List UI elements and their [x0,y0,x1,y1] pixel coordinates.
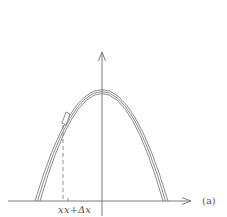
curve-element [62,112,70,125]
outer-parabola [35,90,168,202]
middle-parabola [38,92,166,202]
parabola-diagram: x x+Δx (a) [0,0,227,217]
x-plus-delta-x-label: x+Δx [64,204,91,215]
parabola-curves [35,90,168,202]
y-axis [99,52,106,216]
inner-parabola [40,94,163,202]
panel-label: (a) [202,195,216,206]
